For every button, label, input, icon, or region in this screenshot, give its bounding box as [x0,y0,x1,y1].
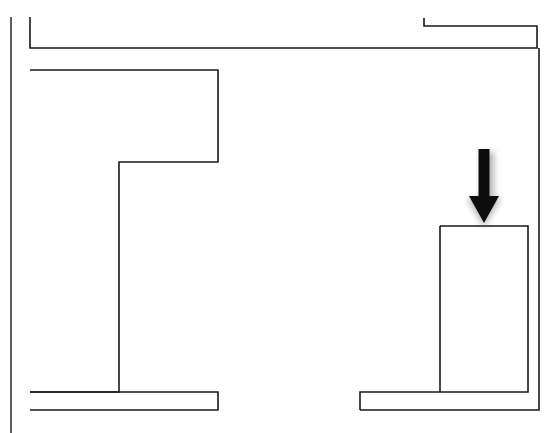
canvas-background [0,0,549,433]
drawing-canvas [0,0,549,433]
line-drawing-svg [0,0,549,433]
arrow-shaft [479,149,490,198]
